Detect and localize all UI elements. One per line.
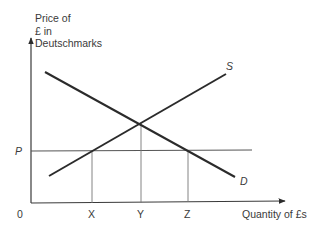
origin-label: 0 bbox=[17, 208, 23, 220]
x-axis bbox=[31, 201, 285, 203]
x-tick-x: X bbox=[88, 208, 95, 220]
curve-label-d: D bbox=[240, 175, 248, 187]
x-tick-y: Y bbox=[137, 208, 144, 220]
x-axis-label: Quantity of £s bbox=[242, 208, 307, 220]
x-tick-z: Z bbox=[184, 208, 191, 220]
price-label-p: P bbox=[15, 145, 22, 157]
price-line-p bbox=[31, 150, 252, 151]
curve-label-s: S bbox=[226, 60, 233, 72]
supply-demand-chart: S D P 0 X Y Z Quantity of £s bbox=[0, 0, 325, 231]
